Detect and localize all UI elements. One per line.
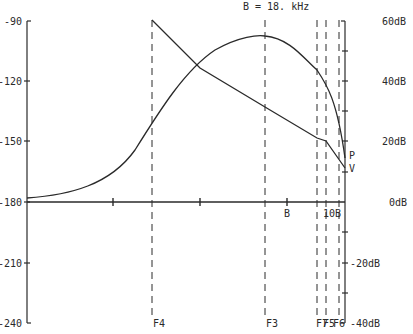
left-axis (24, 21, 31, 323)
series-label-v: V (349, 163, 355, 174)
chart-title: B = 18. kHz (243, 1, 309, 12)
bode-plot: B = 18. kHz -90 -120 -150 -180 -210 -240… (0, 0, 413, 334)
right-tick-label: -40dB (350, 318, 380, 329)
left-tick-label: -210 (0, 258, 22, 269)
x-axis (27, 198, 345, 206)
right-tick-label: 40dB (382, 76, 406, 87)
left-tick-label: -90 (4, 16, 22, 27)
marker-label-f3: F3 (266, 318, 278, 329)
x-tick-label-b: B (284, 208, 290, 219)
marker-label-f6: F6 (333, 318, 345, 329)
left-tick-label: -240 (0, 318, 22, 329)
right-axis (341, 21, 348, 323)
series-label-p: P (349, 150, 355, 161)
left-tick-label: -150 (0, 136, 22, 147)
marker-label-f4: F4 (153, 318, 165, 329)
right-axis-labels: 60dB 40dB 20dB 0dB -20dB -40dB (350, 16, 407, 329)
right-tick-label: 60dB (382, 16, 406, 27)
right-tick-label: -20dB (350, 258, 380, 269)
left-tick-label: -120 (0, 76, 22, 87)
right-tick-label: 20dB (382, 136, 406, 147)
left-tick-label: -180 (0, 197, 22, 208)
gain-line (152, 20, 345, 168)
right-tick-label: 0dB (389, 197, 407, 208)
phase-curve (27, 36, 345, 198)
left-axis-labels: -90 -120 -150 -180 -210 -240 (0, 16, 22, 329)
